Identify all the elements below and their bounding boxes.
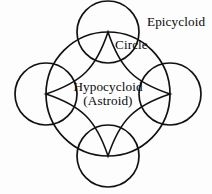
label-hypocycloid: Hypocycloid (Astroid) bbox=[73, 80, 142, 109]
label-epicycloid: Epicycloid bbox=[147, 15, 205, 29]
label-circle: Circle bbox=[115, 38, 148, 52]
figure-container: Epicycloid Circle Hypocycloid (Astroid) bbox=[0, 0, 212, 194]
label-hypocycloid-line2: (Astroid) bbox=[73, 94, 142, 108]
label-hypocycloid-line1: Hypocycloid bbox=[73, 79, 142, 94]
